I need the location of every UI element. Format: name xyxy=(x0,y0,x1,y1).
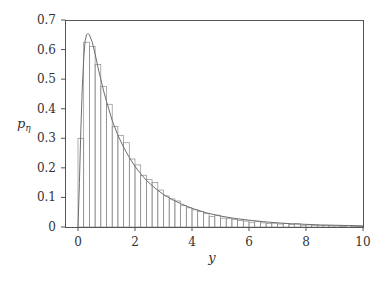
histogram-bar xyxy=(215,215,221,227)
y-tick-label: 0.2 xyxy=(37,161,56,175)
x-tick-label: 6 xyxy=(245,235,253,249)
histogram-bar xyxy=(101,87,107,227)
x-tick-label: 2 xyxy=(131,235,139,249)
histogram-bar xyxy=(260,223,266,227)
histogram-bar xyxy=(255,222,261,227)
y-tick-label: 0.7 xyxy=(37,13,56,27)
y-tick-label: 0.6 xyxy=(37,43,56,57)
x-tick-label: 10 xyxy=(355,235,370,249)
histogram-bar xyxy=(198,212,204,227)
y-axis-label: pη xyxy=(17,116,31,133)
histogram-chart: 0246810 00.10.20.30.40.50.60.7 y pη xyxy=(0,0,387,281)
histogram-bar xyxy=(203,214,209,227)
histogram-bar xyxy=(266,223,272,227)
y-tick-label: 0.3 xyxy=(37,131,56,145)
histogram-bar xyxy=(329,226,335,227)
histogram-bar xyxy=(226,219,232,227)
histogram-bar xyxy=(89,47,95,227)
histogram-bar xyxy=(289,225,295,227)
histogram-bar xyxy=(249,222,255,227)
histogram-bar xyxy=(209,217,215,227)
histogram-bar xyxy=(95,64,101,227)
histogram-bar xyxy=(340,226,346,227)
y-ticks: 00.10.20.30.40.50.60.7 xyxy=(37,13,66,234)
histogram-bar xyxy=(129,159,135,227)
histogram-bar xyxy=(175,201,181,227)
histogram-bar xyxy=(300,225,306,227)
x-tick-label: 0 xyxy=(74,235,82,249)
histogram-bar xyxy=(352,226,358,227)
histogram-bar xyxy=(232,220,238,227)
x-tick-label: 4 xyxy=(188,235,196,249)
histogram-bar xyxy=(312,225,318,227)
histogram-bar xyxy=(84,42,90,227)
y-tick-label: 0.1 xyxy=(37,190,56,204)
histogram-bar xyxy=(164,196,170,227)
histogram-bar xyxy=(306,225,312,227)
histogram-bar xyxy=(278,224,284,227)
histogram-bar xyxy=(186,208,192,227)
histogram-bar xyxy=(221,218,227,227)
histogram-bar xyxy=(192,210,198,227)
x-tick-label: 8 xyxy=(302,235,310,249)
y-tick-label: 0.5 xyxy=(37,72,56,86)
x-ticks: 0246810 xyxy=(74,227,370,249)
y-tick-label: 0.4 xyxy=(37,102,56,116)
histogram-bar xyxy=(118,135,124,227)
plot-frame xyxy=(66,21,364,228)
histogram-bar xyxy=(158,190,164,227)
histogram-bar xyxy=(141,175,147,227)
histogram-bar xyxy=(107,104,113,227)
bars-layer xyxy=(78,42,363,227)
y-tick-label: 0 xyxy=(48,220,56,234)
histogram-bar xyxy=(272,223,278,227)
histogram-bar xyxy=(238,220,244,227)
histogram-bar xyxy=(146,180,152,227)
histogram-bar xyxy=(169,199,175,227)
histogram-bar xyxy=(357,226,363,227)
histogram-bar xyxy=(323,226,329,227)
histogram-bar xyxy=(317,226,323,227)
density-curve xyxy=(78,33,363,227)
histogram-bar xyxy=(112,126,118,227)
histogram-bar xyxy=(243,221,249,227)
histogram-bar xyxy=(181,206,187,227)
x-axis-label: y xyxy=(207,250,216,265)
histogram-bar xyxy=(335,226,341,227)
histogram-bar xyxy=(135,165,141,227)
